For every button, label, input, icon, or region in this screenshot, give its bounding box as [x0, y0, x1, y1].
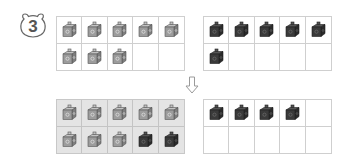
- light-cube-icon: [137, 104, 154, 121]
- light-cube-icon: [111, 48, 128, 65]
- dark-cube-icon: [208, 21, 225, 38]
- light-cube-icon: [61, 131, 78, 148]
- light-cube-cell: [57, 17, 82, 44]
- dark-cube-icon: [233, 21, 250, 38]
- dark-cube-icon: [284, 21, 301, 38]
- empty-cell: [159, 44, 184, 71]
- light-cube-icon: [86, 104, 103, 121]
- down-arrow-icon: [185, 76, 199, 94]
- ten-frame-top-left: [56, 16, 185, 71]
- dark-cube-cell: [204, 17, 229, 44]
- light-cube-icon: [61, 104, 78, 121]
- light-cube-icon: [111, 104, 128, 121]
- dark-cube-cell: [255, 17, 280, 44]
- light-cube-cell: [82, 44, 107, 71]
- light-cube-cell: [57, 127, 82, 154]
- dark-cube-cell: [204, 100, 229, 127]
- light-cube-cell: [108, 100, 133, 127]
- light-cube-cell: [159, 100, 184, 127]
- dark-cube-cell: [255, 100, 280, 127]
- dark-cube-cell: [280, 17, 305, 44]
- light-cube-cell: [133, 100, 158, 127]
- light-cube-cell: [57, 44, 82, 71]
- dark-cube-icon: [208, 48, 225, 65]
- empty-cell: [229, 44, 254, 71]
- light-cube-icon: [163, 21, 180, 38]
- dark-cube-icon: [137, 131, 154, 148]
- dark-cube-cell: [133, 127, 158, 154]
- problem-number: 3: [19, 18, 47, 36]
- dark-cube-icon: [310, 21, 327, 38]
- empty-cell: [306, 127, 331, 154]
- light-cube-icon: [86, 21, 103, 38]
- light-cube-cell: [82, 127, 107, 154]
- dark-cube-cell: [159, 127, 184, 154]
- dark-cube-icon: [163, 131, 180, 148]
- light-cube-cell: [159, 17, 184, 44]
- ten-frame-top-right: [203, 16, 332, 71]
- light-cube-icon: [163, 104, 180, 121]
- empty-cell: [280, 44, 305, 71]
- empty-cell: [255, 44, 280, 71]
- dark-cube-cell: [229, 17, 254, 44]
- problem-number-badge: 3: [19, 12, 47, 38]
- dark-cube-icon: [258, 104, 275, 121]
- dark-cube-icon: [208, 104, 225, 121]
- dark-cube-cell: [280, 100, 305, 127]
- light-cube-cell: [82, 17, 107, 44]
- empty-cell: [133, 44, 158, 71]
- light-cube-icon: [86, 131, 103, 148]
- math-exercise: 3: [0, 0, 342, 167]
- light-cube-cell: [108, 44, 133, 71]
- empty-cell: [280, 127, 305, 154]
- dark-cube-icon: [258, 21, 275, 38]
- light-cube-cell: [57, 100, 82, 127]
- ten-frame-bottom-right: [203, 99, 332, 154]
- light-cube-icon: [111, 131, 128, 148]
- light-cube-icon: [111, 21, 128, 38]
- light-cube-cell: [82, 100, 107, 127]
- dark-cube-icon: [284, 104, 301, 121]
- light-cube-cell: [108, 127, 133, 154]
- empty-cell: [306, 44, 331, 71]
- light-cube-icon: [61, 21, 78, 38]
- light-cube-icon: [137, 21, 154, 38]
- empty-cell: [306, 100, 331, 127]
- dark-cube-cell: [306, 17, 331, 44]
- dark-cube-cell: [229, 100, 254, 127]
- ten-frame-bottom-left: [56, 99, 185, 154]
- light-cube-cell: [108, 17, 133, 44]
- light-cube-cell: [133, 17, 158, 44]
- dark-cube-icon: [233, 104, 250, 121]
- empty-cell: [255, 127, 280, 154]
- empty-cell: [229, 127, 254, 154]
- dark-cube-cell: [204, 44, 229, 71]
- light-cube-icon: [86, 48, 103, 65]
- light-cube-icon: [61, 48, 78, 65]
- empty-cell: [204, 127, 229, 154]
